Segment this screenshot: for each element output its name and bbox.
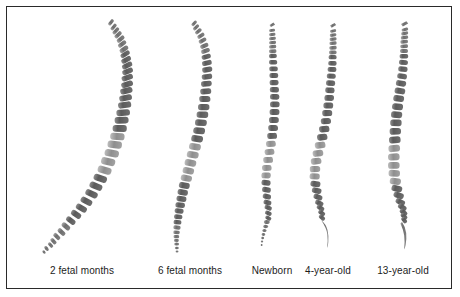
spine-newborn	[261, 23, 280, 246]
label-4-year-old: 4-year-old	[305, 265, 351, 276]
label-13-year-old: 13-year-old	[377, 265, 429, 276]
label-newborn: Newborn	[252, 265, 293, 276]
spine-illustration-plate	[0, 0, 460, 297]
label-2-fetal-months: 2 fetal months	[50, 265, 114, 276]
spine-13-year-old	[388, 21, 409, 249]
spine-development-figure: 2 fetal months 6 fetal months Newborn 4-…	[0, 0, 460, 297]
spine-6-fetal-months	[173, 20, 212, 253]
label-6-fetal-months: 6 fetal months	[158, 265, 222, 276]
spine-4-year-old	[309, 23, 336, 248]
spine-2-fetal-months	[42, 19, 134, 255]
